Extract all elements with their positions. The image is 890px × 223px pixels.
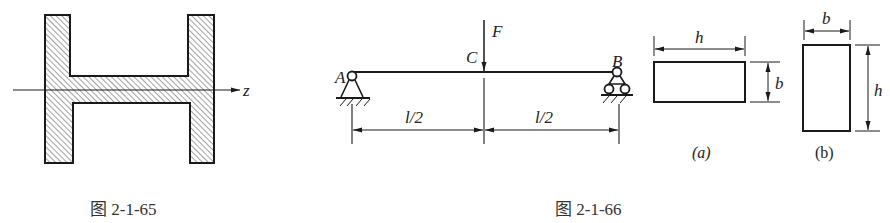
span-left-label: l/2	[405, 108, 423, 127]
i-section-shape	[45, 15, 214, 163]
section-a: h b	[654, 28, 784, 102]
section-a-rect	[654, 62, 745, 102]
section-b: b h	[803, 9, 883, 131]
section-b-height-label: h	[874, 81, 883, 100]
figure-caption-65: 图 2-1-65	[90, 200, 157, 219]
section-a-width-label: h	[695, 28, 704, 47]
section-a-height-label: b	[775, 74, 784, 93]
span-right-label: l/2	[535, 108, 553, 127]
support-b-label: B	[612, 52, 623, 71]
z-axis-label: z	[242, 81, 250, 100]
point-c-label: C	[466, 48, 478, 67]
section-b-width-label: b	[822, 9, 831, 28]
section-b-rect	[803, 45, 850, 131]
section-b-label: (b)	[815, 144, 834, 162]
figure-caption-66: 图 2-1-66	[555, 200, 622, 219]
i-section-figure: z 图 2-1-65	[13, 15, 250, 219]
force-label: F	[491, 22, 503, 41]
figure-canvas: z 图 2-1-65 A B F C	[0, 0, 890, 223]
support-a-label: A	[334, 68, 346, 87]
section-a-label: (a)	[692, 144, 711, 162]
beam-figure: A B F C l/2 l/2 h	[334, 9, 883, 219]
